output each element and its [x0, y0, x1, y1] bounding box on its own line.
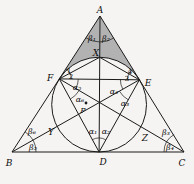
label-angle4: 4: [128, 68, 133, 76]
label-E: E: [144, 78, 152, 88]
triangle-geometry-figure: ABCDEFXYZPβ₁β₂β₃β₄β₅β₆α₁α₂α₃α₄α₅α₆1234: [0, 0, 194, 184]
label-beta1: β₁: [87, 34, 96, 43]
label-B: B: [5, 158, 13, 168]
label-P: P: [79, 106, 86, 115]
label-alpha2: α₂: [102, 127, 111, 136]
label-beta3: β₃: [161, 128, 170, 137]
label-angle2: 2: [69, 73, 73, 81]
label-A: A: [96, 5, 104, 15]
label-Z: Z: [141, 133, 149, 143]
label-alpha6: α₆: [76, 95, 85, 104]
label-angle3: 3: [125, 75, 129, 83]
label-beta2: β₂: [101, 34, 110, 43]
label-beta4: β₄: [165, 143, 174, 152]
label-beta5: β₅: [28, 143, 38, 152]
label-F: F: [46, 73, 54, 83]
label-beta6: β₆: [27, 127, 37, 136]
label-D: D: [98, 157, 106, 167]
label-alpha3: α₃: [121, 99, 130, 108]
label-alpha5: α₅: [73, 83, 82, 92]
label-alpha4: α₄: [110, 87, 119, 96]
label-Y: Y: [48, 127, 55, 137]
point-P-dot: [85, 102, 88, 105]
label-C: C: [179, 158, 186, 168]
label-alpha1: α₁: [89, 127, 98, 136]
label-X: X: [92, 48, 100, 58]
